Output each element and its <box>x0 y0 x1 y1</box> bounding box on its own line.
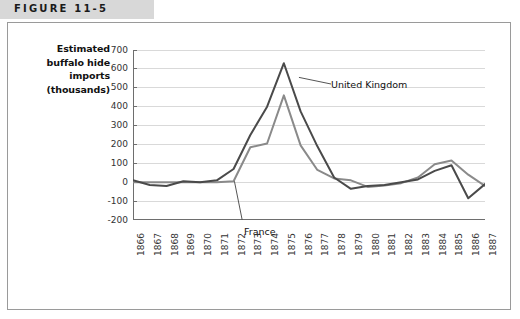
x-tick-label: 1878 <box>338 233 347 256</box>
y-tick-label: 300 <box>111 121 128 130</box>
y-tick-label: 600 <box>111 64 128 73</box>
x-tick-label: 1886 <box>472 233 481 256</box>
x-tick-label: 1868 <box>171 233 180 256</box>
x-tick-label: 1887 <box>489 233 498 256</box>
x-tick-label: 1875 <box>288 233 297 256</box>
x-tick-label: 1883 <box>422 233 431 256</box>
x-tick-label: 1876 <box>305 233 314 256</box>
x-tick-label: 1867 <box>154 233 163 256</box>
annotation-france: France <box>244 226 276 237</box>
figure-page: FIGURE 11-5 Estimated buffalo hide impor… <box>0 0 520 319</box>
x-tick-label: 1882 <box>405 233 414 256</box>
x-tick-label: 1885 <box>455 233 464 256</box>
x-tick-label: 1877 <box>321 233 330 256</box>
y-tick-label: 500 <box>111 83 128 92</box>
x-tick-label: 1869 <box>187 233 196 256</box>
x-tick-label: 1881 <box>388 233 397 256</box>
x-tick-label: 1871 <box>221 233 230 256</box>
y-tick-label: -100 <box>108 197 128 206</box>
y-axis-tick-labels: 7006005004003002001000-100-200 <box>98 44 128 244</box>
y-tick-label: 400 <box>111 102 128 111</box>
x-tick-label: 1879 <box>355 233 364 256</box>
y-tick-label: 0 <box>122 178 128 187</box>
x-tick-label: 1880 <box>372 233 381 256</box>
y-axis-title-line-3: imports <box>14 69 110 83</box>
y-axis-title-line-4: (thousands) <box>14 83 110 97</box>
annotation-leader-united-kingdom <box>299 77 331 84</box>
x-tick-label: 1866 <box>137 233 146 256</box>
annotation-united-kingdom: United Kingdom <box>331 79 407 90</box>
line-chart-svg <box>133 50 485 220</box>
plot-area <box>133 50 485 220</box>
x-tick-label: 1870 <box>204 233 213 256</box>
x-tick-label: 1884 <box>439 233 448 256</box>
y-tick-label: -200 <box>108 216 128 225</box>
y-tick-label: 200 <box>111 140 128 149</box>
series-line-united-kingdom <box>133 63 485 198</box>
y-tick-label: 100 <box>111 159 128 168</box>
